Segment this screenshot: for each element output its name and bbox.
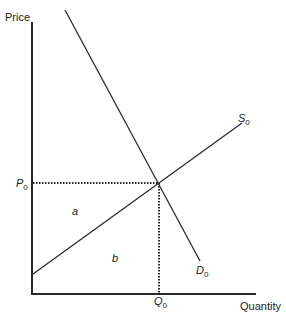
supply-demand-diagram: Price Quantity S0 D0 P0 Q0 a b xyxy=(0,0,286,318)
price-equilibrium-label: P0 xyxy=(16,177,28,192)
demand-curve xyxy=(65,10,200,261)
demand-label: D0 xyxy=(196,264,209,279)
region-a-label: a xyxy=(72,205,78,217)
quantity-equilibrium-label: Q0 xyxy=(154,295,168,310)
y-axis-label: Price xyxy=(5,11,30,23)
x-axis-label: Quantity xyxy=(240,300,281,312)
region-b-label: b xyxy=(112,252,118,264)
